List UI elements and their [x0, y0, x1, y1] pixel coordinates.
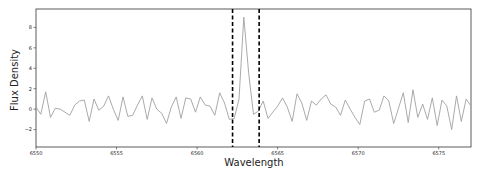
- x-tick-label: 6555: [110, 150, 123, 156]
- y-tick-label: 8: [29, 24, 32, 30]
- x-tick-label: 6550: [30, 150, 43, 156]
- y-tick-label: 0: [29, 106, 32, 112]
- y-tick-label: 2: [29, 86, 32, 92]
- spectrum-chart: 655065556560656565706575 −202468 Wavelen…: [0, 0, 487, 171]
- x-axis-ticks: 655065556560656565706575: [30, 147, 446, 156]
- y-tick-label: 4: [29, 65, 32, 71]
- x-tick-label: 6575: [432, 150, 445, 156]
- plot-area: [36, 9, 471, 147]
- y-tick-label: 6: [29, 45, 32, 51]
- marker-lines: [233, 9, 260, 147]
- y-axis-ticks: −202468: [25, 24, 36, 132]
- x-tick-label: 6565: [271, 150, 284, 156]
- x-axis-label: Wavelength: [224, 157, 283, 168]
- flux-line: [36, 17, 471, 129]
- y-axis-label: Flux Density: [9, 49, 20, 111]
- y-tick-label: −2: [25, 126, 32, 132]
- plot-frame: [36, 9, 471, 147]
- x-tick-label: 6570: [352, 150, 365, 156]
- x-tick-label: 6560: [191, 150, 204, 156]
